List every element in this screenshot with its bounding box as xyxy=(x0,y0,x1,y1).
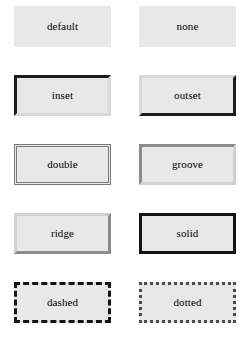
border-style-row: double groove xyxy=(0,144,250,213)
border-sample-dotted: dotted xyxy=(139,282,236,323)
border-sample-groove: groove xyxy=(139,144,236,185)
border-sample-label: outset xyxy=(174,90,201,101)
border-sample-label: dotted xyxy=(173,297,201,308)
border-sample-double: double xyxy=(14,144,111,185)
border-sample-label: ridge xyxy=(51,228,74,239)
grid-cell: double xyxy=(0,144,125,185)
border-sample-ridge: ridge xyxy=(14,213,111,254)
grid-cell: dashed xyxy=(0,282,125,323)
grid-cell: none xyxy=(125,6,250,47)
grid-cell: dotted xyxy=(125,282,250,323)
grid-cell: groove xyxy=(125,144,250,185)
border-sample-label: none xyxy=(177,21,199,32)
border-style-row: dashed dotted xyxy=(0,282,250,347)
border-sample-dashed: dashed xyxy=(14,282,111,323)
border-style-grid: default none inset outset double xyxy=(0,0,250,347)
border-sample-label: default xyxy=(47,21,78,32)
border-sample-none: none xyxy=(139,6,236,47)
border-style-row: inset outset xyxy=(0,75,250,144)
grid-cell: inset xyxy=(0,75,125,116)
border-sample-label: groove xyxy=(172,159,203,170)
border-sample-label: dashed xyxy=(47,297,78,308)
border-sample-solid: solid xyxy=(139,213,236,254)
border-sample-label: inset xyxy=(52,90,73,101)
grid-cell: default xyxy=(0,6,125,47)
grid-cell: outset xyxy=(125,75,250,116)
grid-cell: solid xyxy=(125,213,250,254)
border-style-row: ridge solid xyxy=(0,213,250,282)
border-sample-label: solid xyxy=(177,228,199,239)
grid-cell: ridge xyxy=(0,213,125,254)
border-style-row: default none xyxy=(0,6,250,75)
border-sample-outset: outset xyxy=(139,75,236,116)
border-sample-default: default xyxy=(14,6,111,47)
border-sample-label: double xyxy=(47,159,78,170)
border-sample-inset: inset xyxy=(14,75,111,116)
